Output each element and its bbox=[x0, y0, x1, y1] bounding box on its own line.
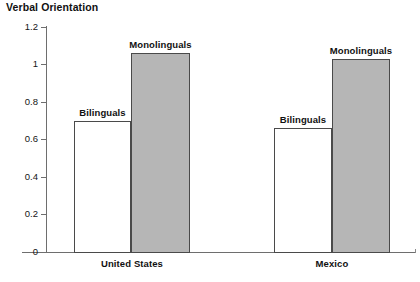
x-axis-group-label-united-states: United States bbox=[72, 258, 192, 269]
y-tick-mark-0_2 bbox=[41, 214, 46, 215]
x-axis-group-label-mexico: Mexico bbox=[272, 258, 392, 269]
y-tick-label-0_8: 0.8 bbox=[4, 96, 38, 107]
bar-mexico-bilinguals[interactable] bbox=[274, 128, 332, 253]
y-tick-mark-0_4 bbox=[41, 177, 46, 178]
y-tick-label-0_4: 0.4 bbox=[4, 171, 38, 182]
y-tick-label-1_0: 1 bbox=[4, 58, 38, 69]
y-tick-mark-1_2 bbox=[41, 27, 46, 28]
x-axis-end-tick bbox=[415, 249, 416, 253]
y-tick-mark-1_0 bbox=[41, 64, 46, 65]
bar-mexico-monolinguals[interactable] bbox=[332, 59, 390, 253]
chart-title: Verbal Orientation bbox=[6, 1, 98, 13]
y-tick-mark-0_6 bbox=[41, 139, 46, 140]
y-axis-line bbox=[46, 26, 47, 253]
bar-label-united-states-monolinguals: Monolinguals bbox=[119, 39, 202, 50]
y-tick-label-1_2: 1.2 bbox=[4, 21, 38, 32]
bar-chart: Verbal Orientation 1.2 1 0.8 0.6 0.4 0.2… bbox=[0, 0, 420, 282]
y-tick-label-0_6: 0.6 bbox=[4, 133, 38, 144]
y-tick-label-0: 0 bbox=[4, 246, 38, 257]
y-tick-mark-0_8 bbox=[41, 102, 46, 103]
bar-label-mexico-monolinguals: Monolinguals bbox=[320, 45, 402, 56]
y-tick-mark-0 bbox=[41, 252, 46, 253]
bar-united-states-bilinguals[interactable] bbox=[74, 121, 131, 253]
y-tick-label-0_2: 0.2 bbox=[4, 208, 38, 219]
bar-united-states-monolinguals[interactable] bbox=[131, 53, 190, 253]
